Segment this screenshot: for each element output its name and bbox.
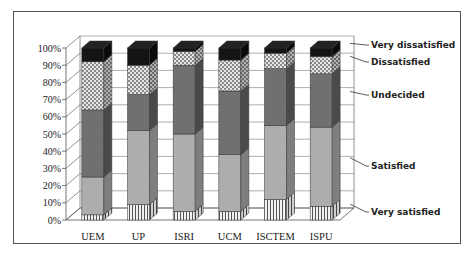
segment-very-satisfied: [173, 211, 195, 220]
legend-callouts: Very satisfiedSatisfiedUndecidedDissatis…: [350, 40, 455, 217]
y-tick-label: 0%: [48, 215, 61, 226]
segment-satisfied: [265, 125, 287, 199]
bar-up: [128, 41, 158, 220]
bar-ucm: [219, 41, 249, 220]
segment-dissatisfied: [173, 51, 195, 65]
legend-label-satisfied: Satisfied: [371, 161, 416, 171]
segment-undecided: [265, 69, 287, 126]
segment-dissatisfied: [82, 62, 104, 110]
bar-isctem: [265, 41, 295, 220]
segment-satisfied: [219, 155, 241, 212]
segment-undecided: [173, 65, 195, 134]
legend-label-undecided: Undecided: [371, 90, 425, 100]
segment-undecided: [82, 110, 104, 177]
segment-satisfied: [82, 177, 104, 215]
segment-dissatisfied: [128, 65, 150, 94]
segment-very-dissatisfied: [310, 48, 332, 57]
segment-undecided: [219, 91, 241, 155]
x-tick-label: ISRI: [174, 231, 194, 242]
segment-undecided: [128, 94, 150, 130]
segment-dissatisfied: [219, 60, 241, 91]
y-tick-label: 40%: [43, 146, 61, 157]
x-tick-label: UCM: [218, 231, 243, 242]
segment-dissatisfied: [310, 57, 332, 74]
y-tick-label: 60%: [43, 111, 61, 122]
y-tick-label: 80%: [43, 77, 61, 88]
y-tick-label: 70%: [43, 94, 61, 105]
bar-isri: [173, 41, 203, 220]
x-tick-label: ISCTEM: [256, 231, 295, 242]
segment-satisfied: [310, 127, 332, 206]
y-tick-label: 90%: [43, 60, 61, 71]
stacked-bar-chart: 0%10%20%30%40%50%60%70%80%90%100% UEMUPI…: [0, 0, 474, 275]
segment-very-dissatisfied: [219, 48, 241, 60]
legend-label-very-dissatisfied: Very dissatisfied: [371, 40, 455, 50]
segment-satisfied: [173, 134, 195, 211]
x-tick-label: UP: [132, 231, 146, 242]
segment-very-dissatisfied: [82, 48, 104, 62]
segment-very-satisfied: [219, 211, 241, 220]
y-tick-label: 30%: [43, 163, 61, 174]
segment-satisfied: [128, 131, 150, 205]
y-tick-label: 50%: [43, 129, 61, 140]
segment-very-satisfied: [128, 205, 150, 220]
legend-label-very-satisfied: Very satisfied: [371, 207, 440, 217]
bar-uem: [82, 41, 112, 220]
legend-label-dissatisfied: Dissatisfied: [371, 57, 430, 67]
y-tick-label: 100%: [38, 43, 61, 54]
bars: [82, 41, 340, 220]
x-tick-label: UEM: [81, 231, 105, 242]
segment-dissatisfied: [265, 53, 287, 68]
x-axis: UEMUPISRIUCMISCTEMISPU: [81, 231, 333, 242]
segment-very-satisfied: [310, 206, 332, 220]
segment-very-dissatisfied: [128, 48, 150, 65]
x-tick-label: ISPU: [310, 231, 333, 242]
segment-undecided: [310, 74, 332, 127]
y-tick-label: 10%: [43, 197, 61, 208]
y-axis: 0%10%20%30%40%50%60%70%80%90%100%: [38, 43, 66, 226]
segment-very-satisfied: [82, 215, 104, 220]
segment-very-dissatisfied: [173, 48, 195, 51]
bar-ispu: [310, 41, 340, 220]
segment-very-satisfied: [265, 199, 287, 220]
y-tick-label: 20%: [43, 180, 61, 191]
segment-very-dissatisfied: [265, 48, 287, 53]
